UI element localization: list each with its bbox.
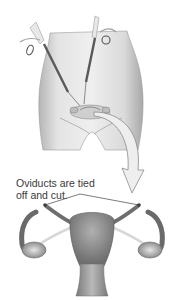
left-ovary — [22, 212, 46, 258]
caption-line-1: Oviducts are tied — [16, 177, 126, 189]
uterus-diagram — [36, 203, 148, 296]
caption-line-2: off and cut. — [16, 189, 126, 201]
illustration-svg — [0, 0, 184, 300]
right-ovary — [138, 212, 162, 258]
tubal-ligation-illustration: Oviducts are tied off and cut. — [0, 0, 184, 300]
caption: Oviducts are tied off and cut. — [16, 177, 126, 201]
